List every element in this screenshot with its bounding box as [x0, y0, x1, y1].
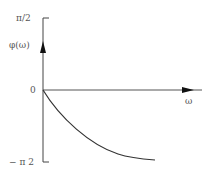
x-axis-label: ω	[185, 96, 192, 106]
y-top-label: π/2	[16, 13, 31, 23]
phase-plot: π/2 φ(ω) 0 − π 2 ω	[0, 0, 224, 176]
x-axis-arrow-icon	[182, 87, 194, 93]
phase-curve	[43, 90, 155, 160]
y-zero-label: 0	[30, 85, 36, 95]
y-bottom-label: − π 2	[9, 157, 34, 167]
y-axis-label: φ(ω)	[9, 40, 30, 50]
y-axis-arrow-icon	[40, 41, 46, 53]
